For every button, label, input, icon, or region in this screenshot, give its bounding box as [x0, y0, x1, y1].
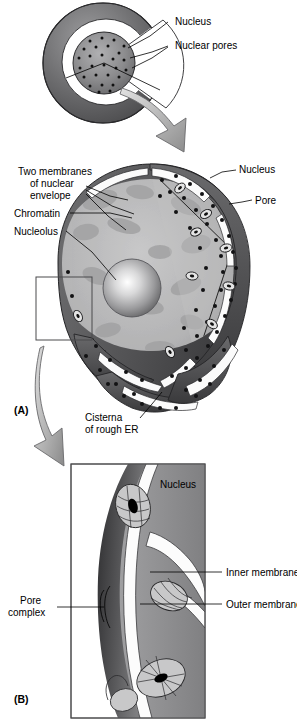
panel-a-nucleus-diagram: [36, 164, 250, 412]
label-pore-complex-line2: complex: [8, 607, 45, 618]
label-nuclear-pores: Nuclear pores: [175, 40, 237, 51]
label-outer-membrane: Outer membrane: [226, 599, 297, 610]
label-pore: Pore: [255, 195, 277, 206]
label-nucleus-mid: Nucleus: [239, 164, 275, 175]
zoom-arrow-bottom: [34, 346, 64, 466]
label-pore-complex-line1: Pore: [20, 595, 42, 606]
panel-b-diagram: [71, 464, 205, 718]
panel-b-marker: (B): [14, 693, 29, 705]
label-two-membranes-line2: of nuclear: [30, 178, 75, 189]
label-nucleolus: Nucleolus: [14, 226, 58, 237]
nucleolus-sphere: [103, 259, 161, 317]
panel-a-marker: (A): [14, 404, 29, 416]
label-inner-membrane: Inner membrane: [226, 567, 297, 578]
label-nucleus-panelb: Nucleus: [160, 479, 196, 490]
label-chromatin: Chromatin: [14, 208, 60, 219]
label-cisterna-line2: of rough ER: [85, 424, 138, 435]
label-nucleus-top: Nucleus: [175, 16, 211, 27]
nucleus-figure: Nucleus Nuclear pores: [0, 0, 297, 728]
label-two-membranes-line3: envelope: [30, 190, 71, 201]
label-cisterna-line1: Cisterna: [85, 412, 123, 423]
label-two-membranes-line1: Two membranes: [18, 166, 92, 177]
